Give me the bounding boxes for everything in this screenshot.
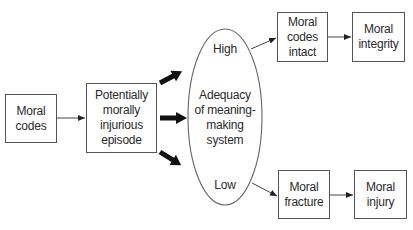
node-text-line: codes xyxy=(15,119,46,134)
center-text-line: of meaning- xyxy=(188,103,262,118)
node-text-line: injury xyxy=(366,195,395,210)
node-text-line: episode xyxy=(95,133,148,148)
ellipse-center-label: Adequacy of meaning- making system xyxy=(188,88,262,148)
low-label-text: Low xyxy=(195,178,255,193)
ellipse-low-label: Low xyxy=(195,178,255,193)
node-text-line: morally xyxy=(95,103,148,118)
node-text-line: Moral xyxy=(15,104,46,119)
node-text-line: Moral xyxy=(284,180,323,195)
center-text-line: making xyxy=(188,118,262,133)
bold-arrow-down xyxy=(157,147,185,170)
node-moral-injury: Moral injury xyxy=(354,170,407,219)
bold-arrow-up xyxy=(157,66,185,88)
center-text-line: Adequacy xyxy=(188,88,262,103)
arrow-low-to-fracture xyxy=(252,183,277,196)
node-text-line: fracture xyxy=(284,195,323,210)
node-text-line: intact xyxy=(287,45,318,60)
node-text-line: Potentially xyxy=(95,88,148,103)
node-text-line: injurious xyxy=(95,118,148,133)
node-moral-codes-intact: Moral codes intact xyxy=(277,12,328,62)
node-moral-fracture: Moral fracture xyxy=(278,170,330,219)
node-text-line: integrity xyxy=(358,37,398,52)
node-potentially-morally-injurious-episode: Potentially morally injurious episode xyxy=(86,83,157,153)
node-moral-integrity: Moral integrity xyxy=(352,12,405,62)
bold-arrow-right xyxy=(160,112,187,124)
node-moral-codes: Moral codes xyxy=(5,94,57,143)
node-text-line: codes xyxy=(287,30,318,45)
high-label-text: High xyxy=(195,42,255,57)
node-text-line: Moral xyxy=(358,22,398,37)
node-text-line: Moral xyxy=(287,15,318,30)
center-text-line: system xyxy=(188,133,262,148)
node-text-line: Moral xyxy=(366,180,395,195)
ellipse-high-label: High xyxy=(195,42,255,57)
